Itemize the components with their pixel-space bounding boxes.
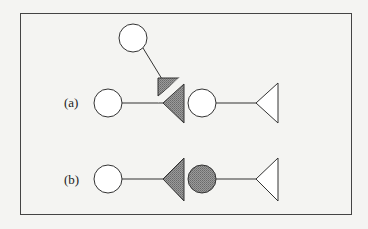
open-triangle-right-a-icon (256, 83, 278, 123)
open-circle-left-a-icon (94, 89, 122, 117)
panel-b: (b) (64, 158, 278, 201)
open-circle-left-b-icon (94, 165, 122, 193)
label-a: (a) (64, 95, 78, 110)
panel-a: (a) (64, 24, 278, 123)
hatched-triangle-b-icon (163, 158, 184, 201)
open-circle-middle-a-icon (188, 89, 216, 117)
open-circle-top-icon (119, 24, 147, 52)
label-b: (b) (64, 172, 79, 187)
hatched-circle-b-icon (188, 165, 216, 193)
diagonal-link (143, 48, 162, 79)
open-triangle-right-b-icon (256, 158, 278, 201)
diagram-canvas: (a) (b) (0, 0, 368, 229)
